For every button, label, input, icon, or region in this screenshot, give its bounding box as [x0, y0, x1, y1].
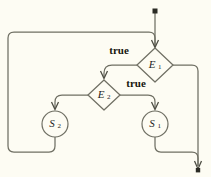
edge-S2-back-to-top	[8, 32, 155, 152]
node-E1-base: E	[148, 58, 156, 70]
node-S1-subscript: 1	[158, 122, 162, 130]
node-E1-subscript: 1	[158, 63, 162, 71]
edge-S1-to-exit	[155, 137, 198, 166]
node-S1-circle	[142, 111, 168, 137]
node-E2-base: E	[97, 88, 105, 100]
start-dot	[153, 9, 158, 14]
node-S2-subscript: 2	[58, 122, 62, 130]
edge-E1-false-to-exit	[173, 65, 198, 166]
edge-label-true-e1: true	[109, 44, 129, 56]
diagram-svg: E 1 E 2 S 2 S 1 true true	[0, 0, 211, 177]
edge-E2-true-to-S1	[120, 95, 155, 108]
exit-marker	[196, 168, 200, 172]
node-S1-base: S	[149, 117, 155, 129]
node-E2-subscript: 2	[107, 93, 111, 101]
node-S2[interactable]: S 2	[42, 111, 68, 137]
node-S1[interactable]: S 1	[142, 111, 168, 137]
node-S2-base: S	[49, 117, 55, 129]
diagram-canvas: E 1 E 2 S 2 S 1 true true	[0, 0, 211, 177]
edge-E2-false-to-S2	[55, 95, 88, 108]
edge-label-true-e2: true	[126, 77, 146, 89]
node-S2-circle	[42, 111, 68, 137]
edge-E1-true-to-E2	[104, 65, 137, 77]
node-E2[interactable]: E 2	[88, 80, 120, 110]
